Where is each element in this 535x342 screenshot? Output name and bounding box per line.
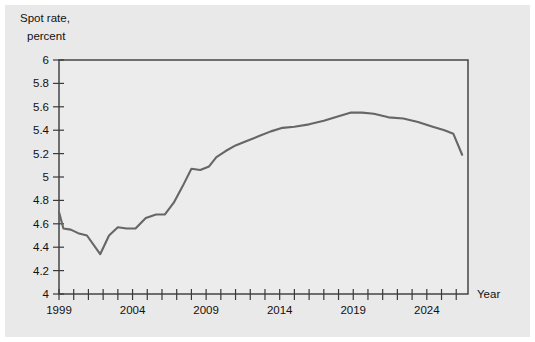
x-axis-tick-labels: 199920042009201420192024	[46, 304, 440, 316]
y-tick-label: 4	[43, 288, 50, 300]
spot-rate-line-chart: 44.24.44.64.855.25.45.65.86 199920042009…	[0, 0, 535, 342]
y-axis-tick-labels: 44.24.44.64.855.25.45.65.86	[33, 54, 50, 300]
y-tick-label: 4.8	[33, 194, 49, 206]
plot-area-background	[59, 60, 468, 294]
chart-page: 44.24.44.64.855.25.45.65.86 199920042009…	[0, 0, 535, 342]
y-tick-label: 4.6	[33, 218, 49, 230]
y-tick-label: 5.2	[33, 148, 49, 160]
x-tick-label: 2024	[414, 304, 440, 316]
y-axis-title-line1: Spot rate,	[20, 12, 70, 24]
y-tick-label: 5.8	[33, 77, 49, 89]
x-tick-label: 1999	[46, 304, 72, 316]
y-tick-label: 4.2	[33, 265, 49, 277]
y-tick-label: 5.4	[33, 124, 50, 136]
y-tick-label: 5	[43, 171, 49, 183]
x-axis-title: Year	[477, 288, 500, 300]
x-tick-label: 2004	[120, 304, 146, 316]
y-tick-label: 5.6	[33, 101, 49, 113]
x-tick-label: 2009	[193, 304, 219, 316]
y-axis-title-line2: percent	[27, 30, 66, 42]
x-tick-label: 2014	[267, 304, 293, 316]
x-tick-label: 2019	[340, 304, 366, 316]
y-tick-label: 4.4	[33, 241, 50, 253]
y-tick-label: 6	[43, 54, 49, 66]
